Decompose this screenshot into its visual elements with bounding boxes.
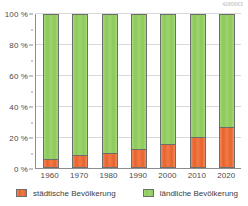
bar-segment-urban[interactable] — [220, 127, 234, 167]
watermark-id: 4280663 — [222, 1, 243, 7]
x-tick-label: 1970 — [70, 171, 88, 180]
legend-label-rural: ländliche Bevölkerung — [160, 189, 238, 198]
bar-stack[interactable] — [43, 14, 59, 168]
y-tick-minor — [31, 60, 33, 61]
y-tick-mark — [29, 45, 33, 46]
bar-stack[interactable] — [190, 14, 206, 168]
y-tick-minor — [31, 153, 33, 154]
bar-stack[interactable] — [219, 14, 235, 168]
y-tick-label: 80 % — [9, 41, 28, 50]
x-tick-label: 2010 — [188, 171, 206, 180]
legend-swatch-rural-icon — [143, 189, 154, 197]
bar-segment-urban[interactable] — [44, 159, 58, 167]
bar-segment-urban[interactable] — [103, 153, 117, 167]
y-tick-label: 100 % — [5, 10, 28, 19]
bar-segment-urban[interactable] — [191, 137, 205, 167]
bar-segment-rural[interactable] — [220, 15, 234, 127]
y-tick-label: 40 % — [9, 103, 28, 112]
y-tick-label: 0 % — [14, 165, 28, 174]
bar-group[interactable] — [102, 14, 118, 168]
x-tick-label: 1980 — [99, 171, 117, 180]
legend-item-urban[interactable]: städtische Bevölkerung — [16, 189, 143, 198]
bar-segment-rural[interactable] — [44, 15, 58, 159]
y-tick-mark — [29, 76, 33, 77]
bar-stack[interactable] — [72, 14, 88, 168]
x-tick-label: 2020 — [217, 171, 235, 180]
bar-group[interactable] — [131, 14, 147, 168]
y-tick-label: 20 % — [9, 134, 28, 143]
bar-segment-urban[interactable] — [73, 155, 87, 167]
legend-item-rural[interactable]: ländliche Bevölkerung — [143, 189, 238, 198]
plot-area — [35, 14, 241, 169]
bar-group[interactable] — [219, 14, 235, 168]
y-tick-minor — [31, 91, 33, 92]
bar-segment-urban[interactable] — [132, 149, 146, 167]
x-tick-label: 2000 — [158, 171, 176, 180]
bar-segment-rural[interactable] — [103, 15, 117, 153]
bar-segment-rural[interactable] — [191, 15, 205, 137]
stacked-bar-chart: 4280663 0 %20 %40 %60 %80 %100 % 1960197… — [0, 0, 248, 206]
bar-group[interactable] — [72, 14, 88, 168]
y-axis: 0 %20 %40 %60 %80 %100 % — [0, 14, 33, 169]
y-tick-mark — [29, 14, 33, 15]
bar-group[interactable] — [190, 14, 206, 168]
bar-group[interactable] — [160, 14, 176, 168]
bar-stack[interactable] — [160, 14, 176, 168]
bar-segment-rural[interactable] — [132, 15, 146, 149]
bar-stack[interactable] — [131, 14, 147, 168]
y-tick-minor — [31, 29, 33, 30]
bar-segment-rural[interactable] — [161, 15, 175, 144]
bar-group[interactable] — [43, 14, 59, 168]
legend: städtische Bevölkerung ländliche Bevölke… — [16, 185, 238, 201]
y-tick-mark — [29, 169, 33, 170]
legend-swatch-urban-icon — [16, 189, 27, 197]
y-tick-minor — [31, 122, 33, 123]
y-tick-mark — [29, 107, 33, 108]
x-tick-label: 1990 — [129, 171, 147, 180]
x-tick-label: 1960 — [41, 171, 59, 180]
legend-label-urban: städtische Bevölkerung — [33, 189, 116, 198]
bar-stack[interactable] — [102, 14, 118, 168]
bar-segment-urban[interactable] — [161, 144, 175, 167]
y-tick-label: 60 % — [9, 72, 28, 81]
bar-segment-rural[interactable] — [73, 15, 87, 155]
y-tick-mark — [29, 138, 33, 139]
x-axis: 1960197019801990200020102020 — [35, 171, 241, 185]
